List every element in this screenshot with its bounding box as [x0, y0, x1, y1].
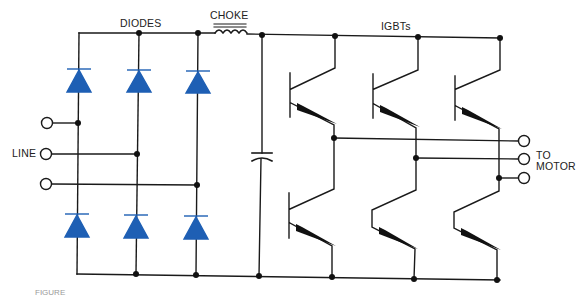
junction-node	[415, 34, 421, 40]
junction-node	[494, 277, 500, 283]
junction-node	[411, 276, 417, 282]
motor-terminal-1	[519, 136, 530, 147]
junction-node	[259, 32, 265, 38]
motor-terminal-3	[519, 173, 530, 184]
junction-node	[413, 155, 419, 161]
line-terminal-3	[41, 179, 52, 190]
junction-node	[496, 175, 502, 181]
igbt-upper-3-body	[455, 38, 500, 178]
dc-negative-rail	[77, 274, 500, 280]
junction-node	[75, 120, 81, 126]
igbt-upper-1-arrow	[297, 103, 337, 124]
motor-terminal-2	[519, 154, 530, 165]
junction-node	[329, 274, 335, 280]
diode-lower-2	[124, 215, 148, 238]
igbt-lower-3-body	[454, 178, 499, 280]
dc-positive-rail	[79, 33, 500, 38]
igbt-upper-3-arrow	[462, 107, 502, 129]
line-wire-3	[52, 184, 197, 185]
choke-coil	[215, 30, 247, 33]
igbt-lower-1-body	[289, 138, 334, 277]
motor-wire-1	[334, 138, 518, 141]
junction-node	[497, 35, 503, 41]
line-terminal-1	[42, 118, 53, 129]
capacitor-plate-bottom	[252, 158, 272, 161]
junction-node	[133, 271, 139, 277]
motor-wire-2	[416, 158, 518, 159]
capacitor-lead	[259, 35, 262, 276]
junction-node	[134, 151, 140, 157]
junction-node	[136, 30, 142, 36]
figure-caption-fragment: FIGURE	[35, 288, 65, 297]
diode-lower-3	[184, 216, 208, 239]
to-motor-label-line2: MOTOR	[536, 161, 576, 172]
junction-node	[256, 273, 262, 279]
junction-node	[195, 30, 201, 36]
igbt-upper-1-body	[290, 36, 335, 138]
igbt-lower-1-arrow	[296, 224, 336, 246]
diodes-label: DIODES	[120, 18, 161, 29]
diode-lower-1	[65, 214, 89, 237]
choke-label: CHOKE	[210, 10, 248, 21]
igbts-label: IGBTs	[381, 21, 411, 32]
igbt-lower-3-arrow	[461, 228, 501, 250]
junction-node	[194, 182, 200, 188]
junction-node	[332, 33, 338, 39]
junction-node	[193, 272, 199, 278]
igbt-upper-2-arrow	[380, 105, 420, 127]
diode-upper-3	[186, 71, 210, 93]
choke-core	[214, 24, 246, 27]
junction-node	[331, 135, 337, 141]
line-label: LINE	[12, 148, 36, 159]
diode-upper-2	[127, 70, 151, 92]
line-terminal-2	[41, 149, 52, 160]
igbt-lower-2-body	[372, 158, 416, 279]
igbt-lower-2-arrow	[379, 227, 418, 249]
diode-upper-1	[67, 69, 91, 92]
